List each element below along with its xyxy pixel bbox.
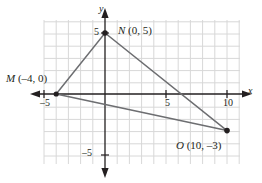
x-tick-label-neg5: –5 bbox=[40, 98, 50, 108]
point-label-m: M (–4, 0) bbox=[6, 73, 47, 84]
x-axis bbox=[30, 90, 252, 98]
point-marker-m bbox=[54, 91, 59, 96]
x-tick-label-5: 5 bbox=[165, 98, 170, 108]
point-label-n: N (0, 5) bbox=[118, 25, 152, 36]
x-tick-label-10: 10 bbox=[223, 98, 233, 108]
point-marker-o bbox=[224, 128, 230, 134]
y-tick-label-5: 5 bbox=[94, 27, 99, 37]
y-tick-label-neg5: –5 bbox=[82, 148, 92, 158]
y-axis-label: y bbox=[99, 4, 103, 14]
coordinate-plane-figure: N (0, 5) M (–4, 0) O (10, –3) –5 5 10 5 … bbox=[0, 0, 262, 183]
x-axis-left-arrow bbox=[30, 90, 40, 97]
point-marker-n bbox=[102, 30, 108, 36]
point-label-o: O (10, –3) bbox=[176, 140, 222, 151]
y-axis-bottom-arrow bbox=[101, 168, 108, 178]
x-axis-label: x bbox=[248, 86, 252, 96]
